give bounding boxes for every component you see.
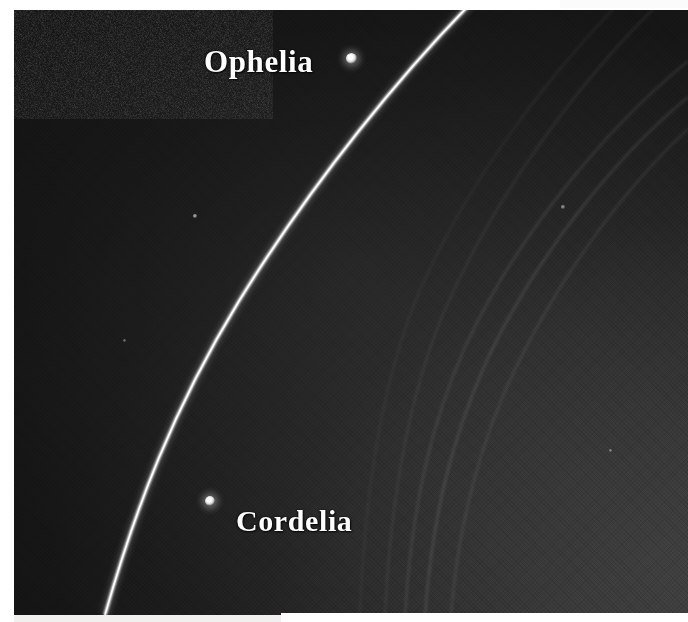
moon-ophelia (346, 53, 357, 64)
print-border-left (0, 0, 14, 622)
label-cordelia: Cordelia (236, 504, 352, 538)
photographic-plate: Ophelia Cordelia (13, 9, 688, 615)
print-border-top-right (560, 0, 688, 8)
label-ophelia: Ophelia (204, 44, 313, 80)
background-speck (561, 205, 565, 209)
photograph-frame: Ophelia Cordelia (0, 0, 688, 622)
background-speck (123, 339, 126, 342)
background-speck (609, 449, 612, 452)
background-speck (193, 214, 197, 218)
moon-cordelia (205, 496, 215, 506)
print-border-bottom (281, 613, 688, 622)
